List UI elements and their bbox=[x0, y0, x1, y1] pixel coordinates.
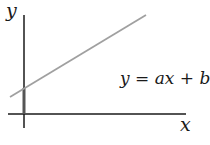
equation-label: y = ax + b bbox=[120, 68, 210, 88]
y-axis-label: y bbox=[6, 0, 17, 21]
x-axis-label: x bbox=[180, 113, 191, 135]
